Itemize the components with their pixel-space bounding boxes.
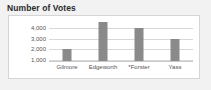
axis-baseline	[49, 61, 193, 62]
plot-area: 1,0002,0003,0004,000 GilmoreEdgeworth*Fo…	[49, 19, 193, 62]
bar[interactable]	[171, 39, 180, 62]
bars-group: GilmoreEdgeworth*ForsterYass	[49, 19, 193, 62]
chart-panel: 1,0002,0003,0004,000 GilmoreEdgeworth*Fo…	[8, 15, 200, 79]
bar-slot: Edgeworth	[85, 19, 121, 62]
chart-title: Number of Votes	[7, 3, 76, 13]
chart-widget: Number of Votes 1,0002,0003,0004,000 Gil…	[0, 0, 211, 90]
y-axis-tick-label: 1,000	[31, 57, 46, 63]
x-axis-tick-label: Edgeworth	[89, 64, 118, 70]
bar-slot: *Forster	[121, 19, 157, 62]
x-axis-tick-label: Yass	[169, 64, 182, 70]
x-axis-tick-label: *Forster	[128, 64, 149, 70]
bar[interactable]	[99, 22, 108, 62]
x-axis-tick-label: Gilmore	[56, 64, 77, 70]
y-axis-tick-label: 2,000	[31, 46, 46, 52]
y-axis-tick-label: 3,000	[31, 36, 46, 42]
y-axis-tick-label: 4,000	[31, 25, 46, 31]
bar-slot: Yass	[157, 19, 193, 62]
bar[interactable]	[135, 28, 144, 62]
bar-slot: Gilmore	[49, 19, 85, 62]
